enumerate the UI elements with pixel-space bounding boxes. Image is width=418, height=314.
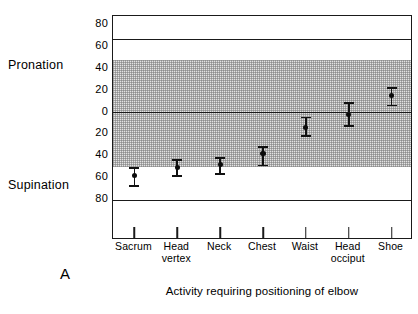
x-axis-category-label-line1: Neck	[207, 240, 231, 252]
x-axis-category-label: Headvertex	[162, 240, 191, 264]
x-axis-category-label-line1: Head	[335, 240, 361, 252]
data-point-marker	[175, 165, 180, 170]
error-bar-cap-lower	[129, 185, 139, 187]
data-point-marker	[132, 173, 137, 178]
reference-line	[113, 200, 411, 201]
x-axis-category-label: Shoe	[378, 240, 403, 252]
x-axis-category-label: Chest	[248, 240, 276, 252]
x-axis-tick	[177, 227, 179, 238]
x-axis-tick-strip	[112, 205, 412, 239]
x-axis-category-label-line1: Shoe	[378, 240, 403, 252]
y-axis-tick-label: 20	[78, 84, 108, 95]
error-bar-cap-upper	[129, 167, 139, 169]
error-bar-cap-lower	[387, 105, 397, 107]
x-axis-category-label-line1: Chest	[248, 240, 276, 252]
y-axis-tick-label: 40	[78, 62, 108, 73]
plot-area	[112, 15, 412, 207]
error-bar-line	[262, 147, 264, 166]
y-axis-tick-label: 20	[78, 127, 108, 138]
x-axis-category-label: Neck	[207, 240, 231, 252]
y-axis-label-supination: Supination	[8, 178, 69, 192]
x-axis-category-labels: SacrumHeadvertexNeckChestWaistHeadoccipu…	[112, 240, 412, 272]
data-series-group	[113, 16, 411, 206]
y-axis-tick-label: 80	[78, 18, 108, 29]
y-axis-tick-label: 0	[78, 106, 108, 117]
y-axis-tick-labels: 80604020020406080	[78, 0, 108, 314]
x-axis-tick	[219, 227, 221, 238]
x-axis-category-label: Waist	[292, 240, 318, 252]
error-bar-cap-upper	[387, 87, 397, 89]
error-bar-cap-upper	[301, 117, 311, 119]
error-bar-cap-lower	[301, 135, 311, 137]
data-point-marker	[389, 93, 394, 98]
x-axis-category-label-line1: Head	[164, 240, 190, 252]
error-bar-cap-lower	[172, 175, 182, 177]
x-axis-category-label: Headocciput	[331, 240, 365, 264]
reference-line	[113, 112, 411, 113]
x-axis-tick	[391, 227, 393, 238]
error-bar-cap-upper	[258, 146, 268, 148]
error-bar-cap-lower	[258, 165, 268, 167]
y-axis-tick-label: 60	[78, 40, 108, 51]
x-axis-tick	[348, 227, 350, 238]
x-axis-category-label-line1: Waist	[292, 240, 318, 252]
y-axis-tick-label: 40	[78, 149, 108, 160]
panel-letter: A	[60, 265, 71, 282]
x-axis-tick	[262, 227, 264, 238]
data-point-marker	[303, 125, 308, 130]
error-bar-cap-lower	[215, 173, 225, 175]
y-axis-tick-label: 60	[78, 171, 108, 182]
error-bar-cap-lower	[344, 125, 354, 127]
y-axis-tick-label: 80	[78, 193, 108, 204]
x-axis-category-label-line2: occiput	[331, 252, 365, 264]
x-axis-title: Activity requiring positioning of elbow	[112, 285, 412, 297]
x-axis-category-label-line1: Sacrum	[115, 240, 152, 252]
x-axis-category-label-line2: vertex	[162, 252, 191, 264]
x-axis-tick	[305, 227, 307, 238]
y-axis-label-pronation: Pronation	[8, 58, 63, 72]
data-point-marker	[218, 162, 223, 167]
error-bar-cap-upper	[344, 102, 354, 104]
reference-line	[113, 39, 411, 40]
error-bar-cap-upper	[172, 159, 182, 161]
data-point-marker	[260, 151, 265, 156]
x-axis-category-label: Sacrum	[115, 240, 152, 252]
figure-panel-a: 80604020020406080 Pronation Supination S…	[0, 0, 418, 314]
error-bar-cap-upper	[215, 157, 225, 159]
x-axis-tick	[134, 227, 136, 238]
